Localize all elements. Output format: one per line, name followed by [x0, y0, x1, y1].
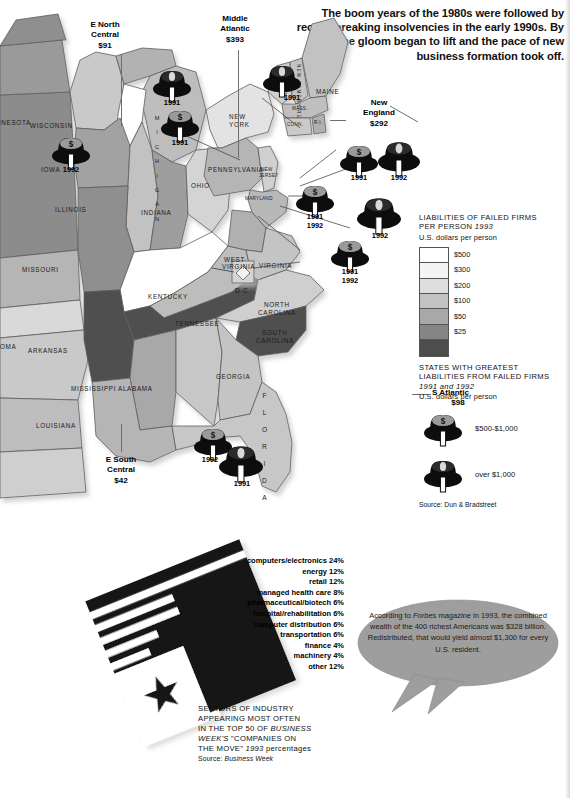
- bubble-text-pre: According to: [369, 611, 413, 620]
- legend-swatch: $50: [420, 309, 448, 324]
- svg-text:$: $: [313, 188, 318, 197]
- sector-item: energy 12%: [148, 567, 344, 578]
- caption-italic: WEEK'S: [198, 734, 229, 743]
- hat-year-newengland-b: 1992: [379, 174, 419, 183]
- legend2-item-over: over $1,000: [419, 453, 567, 493]
- legend2-title-line1: STATES WITH GREATEST: [419, 363, 567, 372]
- caption-source: Source: Business Week: [198, 754, 358, 764]
- caption-line-4: WEEK'S "COMPANIES ON: [198, 734, 358, 744]
- hat-year-wisconsin: 1992: [51, 166, 91, 175]
- legend-subtitle: U.S. dollars per person: [419, 233, 565, 242]
- caption-source-text: Source:: [198, 755, 224, 762]
- legend2-title-line2: LIABILITIES FROM FAILED FIRMS: [419, 372, 567, 381]
- caption-text: IN THE TOP 50 OF: [198, 724, 270, 733]
- svg-text:$: $: [348, 243, 353, 252]
- flag-chart-caption: SECTORS OF INDUSTRY APPEARING MOST OFTEN…: [198, 704, 358, 763]
- legend-swatch: $200: [420, 279, 448, 294]
- legend2-label-over: over $1,000: [475, 470, 515, 479]
- legend-swatch-label: $500: [454, 250, 470, 259]
- hat-marker-wisconsin: $: [51, 130, 85, 164]
- svg-text:$: $: [69, 140, 74, 149]
- sector-item: finance 4%: [148, 641, 344, 652]
- sector-item: managed health care 8%: [148, 588, 344, 599]
- legend-swatch: $100: [420, 294, 448, 309]
- hat-year-maryland-2: 1992: [330, 277, 370, 286]
- hat-year-newjersey-2: 1992: [295, 222, 335, 231]
- sector-item: computer distribution 6%: [148, 620, 344, 631]
- legend-title-line2: PER PERSON 1993: [419, 222, 565, 231]
- hat-legend-over-icon: [423, 453, 457, 487]
- sector-item: hospital/rehabilitation 6%: [148, 609, 344, 620]
- sector-item: computers/electronics 24%: [148, 556, 344, 567]
- legend-swatch-label: $200: [454, 281, 470, 290]
- infographic-page: The boom years of the 1980s were followe…: [0, 0, 570, 798]
- hat-marker-vermont: [262, 58, 296, 92]
- legend-swatch: $25: [420, 325, 448, 340]
- svg-text:$: $: [357, 148, 362, 157]
- legend2-subtitle: U.S. dollars per person: [419, 392, 567, 401]
- legend-swatch: $300: [420, 263, 448, 278]
- hat-marker-newengland-a: $: [339, 138, 373, 172]
- caption-italic: 1993: [246, 744, 264, 753]
- legend-liabilities: LIABILITIES OF FAILED FIRMS PER PERSON 1…: [419, 213, 565, 357]
- legend-swatch: $500: [420, 248, 448, 263]
- hat-marker-newjersey: $: [295, 178, 329, 212]
- sector-item: pharmaceutical/biotech 6%: [148, 598, 344, 609]
- sector-item: other 12%: [148, 662, 344, 673]
- legend-swatch-label: $50: [454, 311, 466, 320]
- bubble-text-italic: Forbes: [413, 611, 436, 620]
- legend-greatest-liabilities: STATES WITH GREATEST LIABILITIES FROM FA…: [419, 363, 567, 508]
- hat-marker-upper-midwest: $: [160, 103, 194, 137]
- hat-legend-dollar-icon: $: [423, 407, 457, 441]
- hat-marker-minnesota: [152, 63, 186, 97]
- legend2-source: Source: Dun & Bradstreet: [419, 501, 567, 508]
- sector-item: retail 12%: [148, 577, 344, 588]
- caption-source-italic: Business Week: [224, 755, 273, 762]
- caption-line-1: SECTORS OF INDUSTRY: [198, 704, 358, 714]
- legend-title-line1: LIABILITIES OF FAILED FIRMS: [419, 213, 565, 222]
- legend-swatch: [420, 340, 448, 355]
- hat-year-vermont: 1991: [272, 94, 312, 103]
- hat-marker-florida-b: [218, 438, 264, 484]
- hat-marker-newengland-b: [377, 134, 417, 174]
- hat-year-upper-midwest: 1991: [160, 139, 200, 148]
- caption-text: THE MOVE": [198, 744, 246, 753]
- legend-swatch-label: $25: [454, 327, 466, 336]
- legend-title-main: PER PERSON: [419, 222, 472, 231]
- hat-year-florida-b: 1991: [220, 480, 264, 489]
- legend2-item-dollar: $ $500-$1,000: [419, 407, 567, 447]
- legend-swatch-label: $100: [454, 296, 470, 305]
- caption-line-3: IN THE TOP 50 OF BUSINESS: [198, 724, 358, 734]
- legend-swatch-label: $300: [454, 265, 470, 274]
- caption-line-2: APPEARING MOST OFTEN: [198, 714, 358, 724]
- legend2-label-dollar: $500-$1,000: [475, 424, 518, 433]
- caption-italic: BUSINESS: [270, 724, 311, 733]
- sector-percent-list: computers/electronics 24% energy 12% ret…: [148, 556, 344, 673]
- svg-text:$: $: [178, 113, 183, 122]
- page-edge-shadow: [565, 0, 570, 798]
- legend-swatch-column: $500 $300 $200 $100 $50 $25: [419, 247, 449, 357]
- caption-text: "COMPANIES ON: [229, 734, 297, 743]
- hat-marker-maryland: $: [330, 233, 364, 267]
- caption-text: percentages: [264, 744, 311, 753]
- sector-item: machinery 4%: [148, 651, 344, 662]
- legend2-title-years: 1991 and 1992: [419, 382, 567, 391]
- caption-line-5: THE MOVE" 1993 percentages: [198, 744, 358, 754]
- legend-title-year: 1993: [475, 222, 493, 231]
- sector-item: transportation 6%: [148, 630, 344, 641]
- svg-text:$: $: [211, 431, 216, 440]
- svg-text:$: $: [441, 417, 446, 426]
- hat-marker-connecticut: [356, 190, 402, 236]
- bubble-text: According to Forbes magazine in 1993, th…: [366, 610, 550, 655]
- forbes-callout-bubble: According to Forbes magazine in 1993, th…: [352, 596, 564, 716]
- hat-year-newengland-a: 1991: [339, 174, 379, 183]
